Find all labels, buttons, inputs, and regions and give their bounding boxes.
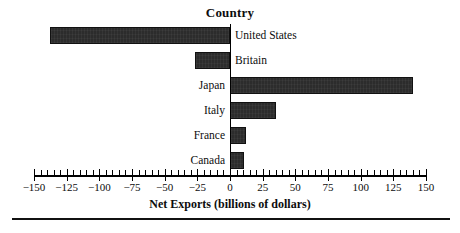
bar[interactable]	[230, 77, 413, 94]
x-axis-minor-tick	[269, 170, 270, 176]
x-axis-minor-tick	[400, 170, 401, 176]
x-axis-minor-tick	[184, 170, 185, 176]
x-axis-minor-tick	[112, 170, 113, 176]
x-axis-minor-tick	[119, 170, 120, 176]
bar[interactable]	[230, 152, 244, 169]
x-axis-minor-tick	[406, 170, 407, 176]
x-axis-minor-tick	[171, 170, 172, 176]
bottom-rule	[12, 218, 450, 220]
bar-category-label: Japan	[199, 77, 225, 94]
x-axis-minor-tick	[125, 170, 126, 176]
x-axis-minor-tick	[348, 170, 349, 176]
x-axis-major-tick	[67, 169, 68, 181]
x-axis-minor-tick	[106, 170, 107, 176]
x-axis-minor-tick	[413, 170, 414, 176]
x-axis-major-tick	[426, 169, 427, 181]
x-axis-minor-tick	[380, 170, 381, 176]
bar[interactable]	[195, 52, 230, 69]
x-axis-minor-tick	[341, 170, 342, 176]
x-axis-minor-tick	[276, 170, 277, 176]
x-axis-minor-tick	[289, 170, 290, 176]
x-axis-major-tick	[34, 169, 35, 181]
x-axis-major-tick	[295, 169, 296, 181]
x-axis-major-tick	[99, 169, 100, 181]
zero-baseline	[230, 24, 231, 176]
x-axis-minor-tick	[158, 170, 159, 176]
x-axis-minor-tick	[419, 170, 420, 176]
x-axis-minor-tick	[86, 170, 87, 176]
x-axis-minor-tick	[47, 170, 48, 176]
bar-category-label: Britain	[235, 52, 267, 69]
x-axis-minor-tick	[256, 170, 257, 176]
x-axis-minor-tick	[93, 170, 94, 176]
bar-category-label: United States	[235, 27, 297, 44]
x-axis-minor-tick	[152, 170, 153, 176]
x-axis-minor-tick	[178, 170, 179, 176]
x-axis-major-tick	[197, 169, 198, 181]
bar-category-label: Canada	[191, 152, 225, 169]
x-axis-minor-tick	[60, 170, 61, 176]
bar-category-label: France	[194, 127, 225, 144]
x-axis-major-tick	[165, 169, 166, 181]
x-axis-title: Net Exports (billions of dollars)	[0, 197, 460, 212]
x-axis-minor-tick	[367, 170, 368, 176]
x-axis-minor-tick	[315, 170, 316, 176]
x-axis-minor-tick	[73, 170, 74, 176]
x-axis-minor-tick	[387, 170, 388, 176]
x-axis-minor-tick	[223, 170, 224, 176]
x-axis-minor-tick	[321, 170, 322, 176]
x-axis-minor-tick	[354, 170, 355, 176]
bar-category-label: Italy	[204, 102, 225, 119]
x-axis-major-tick	[393, 169, 394, 181]
x-axis-minor-tick	[282, 170, 283, 176]
x-axis-minor-tick	[335, 170, 336, 176]
x-axis-minor-tick	[145, 170, 146, 176]
x-axis-minor-tick	[80, 170, 81, 176]
x-axis-minor-tick	[374, 170, 375, 176]
x-axis-minor-tick	[41, 170, 42, 176]
x-axis-minor-tick	[237, 170, 238, 176]
bar[interactable]	[50, 27, 230, 44]
x-axis-major-tick	[230, 169, 231, 181]
x-axis-major-tick	[132, 169, 133, 181]
x-axis-minor-tick	[191, 170, 192, 176]
bar[interactable]	[230, 127, 246, 144]
x-axis-minor-tick	[243, 170, 244, 176]
x-axis-tick-label: 150	[406, 181, 446, 193]
x-axis-minor-tick	[210, 170, 211, 176]
x-axis-minor-tick	[204, 170, 205, 176]
bar[interactable]	[230, 102, 276, 119]
x-axis-minor-tick	[302, 170, 303, 176]
x-axis-major-tick	[361, 169, 362, 181]
x-axis-major-tick	[263, 169, 264, 181]
x-axis-minor-tick	[139, 170, 140, 176]
x-axis-minor-tick	[54, 170, 55, 176]
bar-chart: Country United StatesBritainJapanItalyFr…	[0, 0, 460, 233]
x-axis-minor-tick	[250, 170, 251, 176]
x-axis-minor-tick	[217, 170, 218, 176]
x-axis-minor-tick	[308, 170, 309, 176]
x-axis-major-tick	[328, 169, 329, 181]
chart-title: Country	[0, 5, 460, 21]
